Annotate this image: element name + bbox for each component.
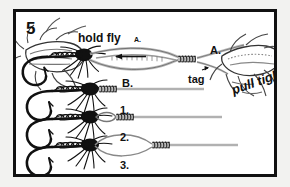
label-stage-3: 3.	[120, 160, 129, 171]
stage-3-fly	[27, 135, 238, 174]
figure-panel: 5 hold fly A. A. B. tag pull tight 1. 2.…	[0, 0, 290, 187]
tag-pointer-icon	[202, 66, 209, 70]
label-point-b: B.	[122, 78, 133, 89]
label-point-a: A.	[210, 45, 221, 56]
label-hold-fly: hold fly	[78, 32, 121, 44]
label-hold-fly-point: A.	[134, 36, 141, 43]
label-stage-1: 1.	[120, 105, 129, 116]
label-stage-2: 2.	[120, 132, 129, 143]
leader-loop	[90, 48, 184, 69]
step-number: 5	[26, 20, 35, 37]
label-tag: tag	[188, 74, 205, 85]
stage-1-fly	[27, 80, 204, 120]
illustration-frame: 5 hold fly A. A. B. tag pull tight 1. 2.…	[13, 9, 277, 177]
knot-coil-top	[178, 56, 196, 62]
